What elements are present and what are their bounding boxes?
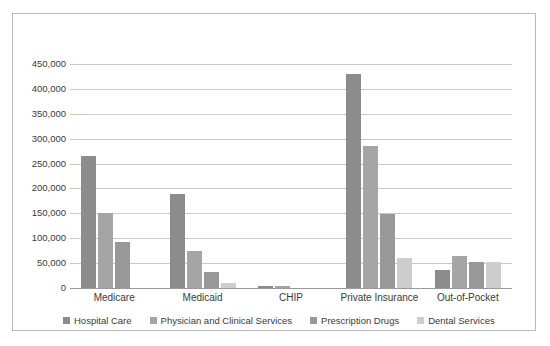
bar-group (70, 64, 158, 288)
gridline (70, 288, 512, 289)
x-axis-tick-label: Medicaid (158, 292, 246, 303)
bar[interactable] (380, 214, 395, 288)
y-axis-tick-label: 50,000 (14, 258, 66, 268)
legend-swatch-icon (417, 317, 424, 324)
y-axis-tick-label: 250,000 (14, 159, 66, 169)
bar[interactable] (81, 156, 96, 288)
x-axis-tick-label: Private Insurance (335, 292, 423, 303)
chart-legend: Hospital CarePhysician and Clinical Serv… (63, 316, 513, 326)
bar[interactable] (486, 262, 501, 288)
bar[interactable] (98, 213, 113, 288)
bar[interactable] (435, 270, 450, 288)
bar[interactable] (187, 251, 202, 288)
bar[interactable] (170, 194, 185, 288)
bar[interactable] (469, 262, 484, 288)
bar[interactable] (275, 286, 290, 288)
legend-label: Prescription Drugs (321, 316, 399, 326)
bar-group (424, 64, 512, 288)
y-axis-tick-label: 200,000 (14, 184, 66, 194)
y-axis-tick-label: 400,000 (14, 84, 66, 94)
x-axis-tick-label: Medicare (70, 292, 158, 303)
legend-swatch-icon (63, 317, 70, 324)
y-axis-tick-label: 350,000 (14, 109, 66, 119)
legend-swatch-icon (150, 317, 157, 324)
y-axis-tick-label: 150,000 (14, 209, 66, 219)
legend-label: Hospital Care (74, 316, 132, 326)
legend-item[interactable]: Prescription Drugs (310, 316, 399, 326)
bar[interactable] (221, 283, 236, 288)
y-axis-tick-label: 450,000 (14, 59, 66, 69)
bar-group (247, 64, 335, 288)
bar[interactable] (363, 146, 378, 288)
y-axis-tick-labels: 050,000100,000150,000200,000250,000300,0… (13, 64, 66, 288)
legend-item[interactable]: Physician and Clinical Services (150, 316, 292, 326)
bar[interactable] (346, 74, 361, 288)
y-axis-tick-label: 100,000 (14, 233, 66, 243)
bar-group (158, 64, 246, 288)
legend-item[interactable]: Hospital Care (63, 316, 132, 326)
legend-swatch-icon (310, 317, 317, 324)
bar-groups (70, 64, 512, 288)
x-axis-tick-label: Out-of-Pocket (424, 292, 512, 303)
chart-figure: 050,000100,000150,000200,000250,000300,0… (12, 13, 536, 331)
y-axis-tick-label: 0 (14, 283, 66, 293)
bar[interactable] (115, 242, 130, 288)
bar[interactable] (258, 286, 273, 288)
plot-area (70, 64, 512, 288)
x-axis-tick-label: CHIP (247, 292, 335, 303)
bar[interactable] (204, 272, 219, 288)
bar-group (335, 64, 423, 288)
bar[interactable] (452, 256, 467, 288)
bar[interactable] (397, 258, 412, 288)
y-axis-tick-label: 300,000 (14, 134, 66, 144)
x-axis-tick-labels: MedicareMedicaidCHIPPrivate InsuranceOut… (70, 292, 512, 303)
legend-label: Dental Services (428, 316, 495, 326)
legend-label: Physician and Clinical Services (161, 316, 292, 326)
legend-item[interactable]: Dental Services (417, 316, 495, 326)
